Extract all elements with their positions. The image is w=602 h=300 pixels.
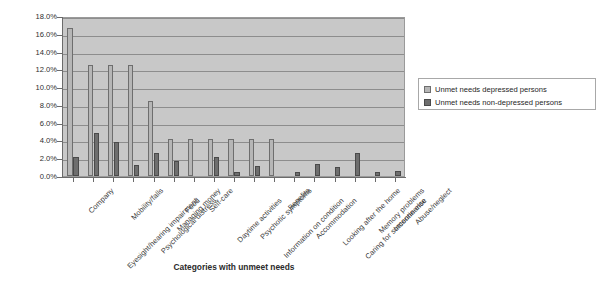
x-axis-category-label: Incontinence <box>391 196 428 233</box>
y-axis-tick-label: 0.0% <box>7 172 57 181</box>
bar-non-depressed <box>234 172 239 176</box>
x-axis-category-label: Caring for someone else <box>363 196 428 261</box>
x-axis-category-label: Accommodation <box>314 196 359 241</box>
chart-legend: Unmet needs depressed persons Unmet need… <box>418 78 596 110</box>
bar-non-depressed <box>375 172 380 176</box>
bar-depressed <box>188 139 193 176</box>
y-axis-tick-mark <box>57 53 62 54</box>
plot-area-wrapper <box>63 17 405 177</box>
x-axis-tick-mark <box>73 178 74 182</box>
bar-non-depressed <box>73 157 78 176</box>
y-axis-tick-mark <box>57 177 62 178</box>
bar-non-depressed <box>114 142 119 176</box>
y-axis-tick-mark <box>57 88 62 89</box>
y-axis-tick-label: 10.0% <box>7 83 57 92</box>
x-axis-tick-mark <box>294 178 295 182</box>
bar-non-depressed <box>134 165 139 176</box>
y-axis-tick-mark <box>57 70 62 71</box>
bar-non-depressed <box>355 153 360 176</box>
y-axis-tick-label: 2.0% <box>7 154 57 163</box>
legend-item-non-depressed: Unmet needs non-depressed persons <box>424 96 590 108</box>
x-axis-tick-mark <box>234 178 235 182</box>
bar-depressed <box>108 65 113 176</box>
bar-non-depressed <box>154 153 159 176</box>
bar-depressed <box>168 139 173 176</box>
x-axis-category-label: Company <box>87 186 116 215</box>
x-axis-category-label: Daytime activities <box>235 196 283 244</box>
bar-depressed <box>67 28 72 176</box>
y-axis-tick-mark <box>57 35 62 36</box>
bar-non-depressed <box>94 133 99 176</box>
bar-depressed <box>148 101 153 176</box>
y-axis-tick-label: 14.0% <box>7 48 57 57</box>
x-axis-tick-mark <box>254 178 255 182</box>
x-axis-category-label: Psychological distress <box>159 196 218 255</box>
x-axis-category-label: Abuse/neglect <box>413 186 453 226</box>
x-axis-tick-mark <box>133 178 134 182</box>
bar-depressed <box>228 139 233 176</box>
x-axis-tick-mark <box>274 178 275 182</box>
x-axis-category-label: Food <box>183 196 202 215</box>
plot-area <box>63 17 405 177</box>
legend-swatch-depressed-icon <box>424 86 431 93</box>
bar-non-depressed <box>335 167 340 176</box>
x-axis-category-label: Memory problems <box>376 186 425 235</box>
x-axis-category-label: Benefits <box>286 186 312 212</box>
x-axis-tick-mark <box>154 178 155 182</box>
x-axis-tick-mark <box>113 178 114 182</box>
x-axis-title: Categories with unmeet needs <box>63 262 405 272</box>
x-axis-category-label: Psychotic symptoms <box>258 186 313 241</box>
x-axis-tick-mark <box>314 178 315 182</box>
bar-depressed <box>208 139 213 176</box>
x-axis-tick-mark <box>395 178 396 182</box>
x-axis-category-label: Information on condition <box>282 196 346 260</box>
x-axis-tick-mark <box>355 178 356 182</box>
legend-label-depressed: Unmet needs depressed persons <box>435 85 547 94</box>
x-axis-tick-mark <box>93 178 94 182</box>
figure-caption <box>8 291 568 300</box>
bar-non-depressed <box>214 157 219 176</box>
bar-non-depressed <box>315 164 320 176</box>
bar-non-depressed <box>255 166 260 176</box>
legend-label-non-depressed: Unmet needs non-depressed persons <box>435 98 562 107</box>
y-axis-tick-mark <box>57 159 62 160</box>
y-axis-tick-mark <box>57 17 62 18</box>
y-axis-tick-label: 6.0% <box>7 119 57 128</box>
x-axis-category-label: Eyesight/hearing impairment <box>125 196 200 271</box>
y-axis-tick-label: 12.0% <box>7 65 57 74</box>
x-axis-tick-mark <box>375 178 376 182</box>
x-axis-category-label: Managing money <box>175 186 222 233</box>
bar-non-depressed <box>174 161 179 176</box>
x-axis-tick-mark <box>194 178 195 182</box>
y-axis-tick-label: 18.0% <box>7 12 57 21</box>
bar-depressed <box>269 139 274 176</box>
bar-non-depressed <box>395 171 400 176</box>
legend-swatch-non-depressed-icon <box>424 99 431 106</box>
x-axis-tick-mark <box>214 178 215 182</box>
x-axis-category-label: Mobility/falls <box>129 186 165 222</box>
y-axis-tick-label: 16.0% <box>7 30 57 39</box>
bars-layer <box>63 18 404 176</box>
y-axis-tick-mark <box>57 106 62 107</box>
bar-non-depressed <box>295 172 300 176</box>
y-axis-tick-mark <box>57 141 62 142</box>
chart-page: Percentage 18.0%16.0%14.0%12.0%10.0%8.0%… <box>0 0 602 300</box>
y-axis-tick-mark <box>57 124 62 125</box>
x-axis-tick-mark <box>174 178 175 182</box>
x-axis-category-label: Looking after the home <box>341 186 402 247</box>
bar-depressed <box>128 65 133 176</box>
y-axis-tick-label: 4.0% <box>7 136 57 145</box>
bar-depressed <box>88 65 93 176</box>
legend-item-depressed: Unmet needs depressed persons <box>424 83 590 95</box>
y-axis-tick-label: 8.0% <box>7 101 57 110</box>
x-axis-tick-mark <box>335 178 336 182</box>
bar-depressed <box>249 139 254 176</box>
x-axis-category-label: Self-care <box>207 186 235 214</box>
